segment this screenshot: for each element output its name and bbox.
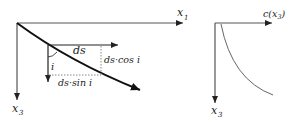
ds-sin-i-label: ds·sin i	[58, 77, 92, 88]
angle-arc	[48, 52, 57, 57]
right-panel: c(x3) x 3	[211, 8, 286, 119]
x3-axis-subscript: 3	[19, 109, 24, 117]
left-panel: x 1 x 3 ds i ds·cos i ds·sin i	[12, 6, 188, 117]
angle-label-i: i	[51, 61, 54, 72]
velocity-profile-curve	[221, 24, 273, 95]
x1-axis-subscript: 1	[184, 14, 188, 22]
x3-axis-label: x	[12, 102, 19, 115]
x1-axis-label: x	[177, 6, 184, 19]
c-axis-label: c(x3)	[263, 8, 286, 21]
x3-axis-label-right: x	[211, 104, 218, 117]
element-label-ds: ds	[73, 44, 86, 57]
ray-path-diagram: x 1 x 3 ds i ds·cos i ds·sin i c(x3) x 3	[0, 0, 291, 122]
x3-axis-subscript-right: 3	[218, 111, 223, 119]
ds-cos-i-label: ds·cos i	[104, 54, 140, 65]
